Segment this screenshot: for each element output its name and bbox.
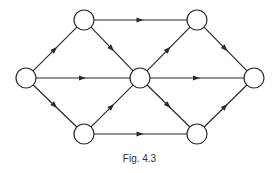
node-TR <box>187 10 207 30</box>
node-R <box>244 68 264 88</box>
nodes-group <box>16 10 264 144</box>
arrowhead-icon <box>193 75 200 80</box>
edge-BL-BR <box>94 131 187 136</box>
edge-BR-R <box>204 85 247 127</box>
edge-L-C <box>36 75 130 80</box>
edge-C-R <box>150 75 244 80</box>
arrowhead-icon <box>137 17 144 22</box>
node-BL <box>74 124 94 144</box>
edge-TL-C <box>91 27 133 71</box>
edge-TR-R <box>204 27 247 71</box>
edge-C-TR <box>147 27 190 71</box>
directed-graph <box>0 0 279 173</box>
arrowhead-icon <box>137 131 144 136</box>
edge-BL-C <box>91 85 133 127</box>
node-L <box>16 68 36 88</box>
edge-TL-TR <box>94 17 187 22</box>
edge-L-TL <box>33 27 77 71</box>
edge-L-BL <box>33 85 77 127</box>
arrowhead-icon <box>79 75 86 80</box>
node-TL <box>74 10 94 30</box>
edge-C-BR <box>147 85 190 127</box>
figure-caption: Fig. 4.3 <box>0 153 279 164</box>
node-BR <box>187 124 207 144</box>
node-C <box>130 68 150 88</box>
